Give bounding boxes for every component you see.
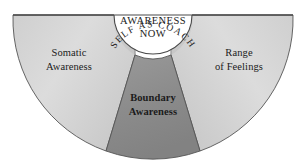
- segment-label-boundary-line2: Awareness: [129, 106, 177, 117]
- diagram-root: AWARENESS NOW SELF AS COACH Somatic Awar…: [0, 0, 306, 168]
- segment-label-range-line2: of Feelings: [215, 61, 263, 72]
- segment-label-range-line1: Range: [225, 47, 253, 58]
- segment-label-somatic-line1: Somatic: [51, 47, 86, 58]
- segment-label-boundary-line1: Boundary: [130, 92, 176, 103]
- segment-label-somatic-line2: Awareness: [46, 61, 92, 72]
- semicircle-diagram: AWARENESS NOW SELF AS COACH Somatic Awar…: [0, 0, 306, 168]
